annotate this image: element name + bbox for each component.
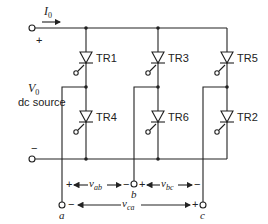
thyristor-tr6-icon bbox=[146, 111, 165, 134]
leg-c: TR5 TR2 bbox=[203, 28, 258, 202]
svg-text:+: + bbox=[66, 178, 72, 190]
thyristor-tr2-icon bbox=[215, 111, 234, 134]
bridge-circuit-diagram: I0 + V0 dc source − TR1 TR4 bbox=[0, 0, 268, 224]
leg-a: TR1 TR4 bbox=[62, 26, 117, 202]
svg-text:vab: vab bbox=[89, 177, 102, 192]
minus-sign: − bbox=[31, 142, 37, 154]
dc-current-label: I0 bbox=[42, 4, 60, 22]
dc-positive-terminal bbox=[29, 25, 35, 31]
voltage-vab: + vab − bbox=[66, 177, 129, 192]
terminal-a bbox=[59, 202, 65, 208]
label-tr2: TR2 bbox=[237, 111, 258, 123]
thyristor-tr1-icon bbox=[74, 52, 93, 75]
svg-text:−: − bbox=[68, 198, 74, 210]
dc-voltage-label: V0 bbox=[28, 81, 39, 97]
label-tr4: TR4 bbox=[96, 111, 117, 123]
dc-source-caption: dc source bbox=[18, 96, 66, 108]
terminal-c-label: c bbox=[200, 209, 205, 221]
thyristor-tr4-icon bbox=[74, 111, 93, 134]
svg-text:+: + bbox=[139, 178, 145, 190]
label-tr3: TR3 bbox=[168, 52, 189, 64]
terminal-b bbox=[131, 181, 137, 187]
label-tr1: TR1 bbox=[96, 52, 117, 64]
terminal-c bbox=[200, 202, 206, 208]
dc-negative-terminal bbox=[29, 156, 35, 162]
thyristor-tr5-icon bbox=[215, 52, 234, 75]
thyristor-tr3-icon bbox=[146, 52, 165, 75]
terminal-b-label: b bbox=[131, 188, 137, 200]
svg-text:+: + bbox=[192, 198, 198, 210]
svg-text:−: − bbox=[123, 178, 129, 190]
label-tr6: TR6 bbox=[168, 111, 189, 123]
terminal-a-label: a bbox=[59, 209, 65, 221]
plus-sign: + bbox=[36, 34, 42, 46]
svg-text:vbc: vbc bbox=[161, 177, 174, 192]
leg-b: TR3 TR6 bbox=[134, 26, 189, 181]
voltage-vbc: + vbc − bbox=[139, 177, 200, 192]
label-tr5: TR5 bbox=[237, 52, 258, 64]
svg-text:I0: I0 bbox=[43, 4, 52, 20]
svg-text:−: − bbox=[194, 178, 200, 190]
